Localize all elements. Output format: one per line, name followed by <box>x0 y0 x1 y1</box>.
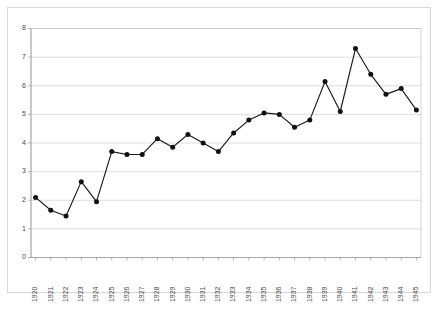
x-axis-tick-label: 1944 <box>397 286 404 302</box>
y-axis-tick-label: 3 <box>22 167 26 174</box>
x-axis-tick-label: 1945 <box>412 286 419 302</box>
data-point-marker <box>64 213 69 218</box>
data-line-group <box>36 49 417 216</box>
x-axis-tick-label: 1942 <box>367 286 374 302</box>
x-axis-tick-label: 1921 <box>47 286 54 302</box>
line-chart: 012345678 192019211922192319241925192619… <box>0 0 439 319</box>
x-axis-tick-label: 1926 <box>123 286 130 302</box>
x-axis-tick-label: 1934 <box>245 286 252 302</box>
data-point-marker <box>262 110 267 115</box>
data-point-marker <box>414 108 419 113</box>
x-axis-tick-label: 1930 <box>184 286 191 302</box>
x-axis-tick-label: 1932 <box>214 286 221 302</box>
x-axis-tick-label: 1924 <box>92 286 99 302</box>
x-axis-tick-label: 1933 <box>229 286 236 302</box>
y-axis-tick-label: 2 <box>22 196 26 203</box>
y-axis-tick-label: 0 <box>22 253 26 260</box>
data-point-marker <box>79 179 84 184</box>
data-point-marker <box>292 125 297 130</box>
y-axis-tick-label: 4 <box>22 139 26 146</box>
data-point-marker <box>246 118 251 123</box>
y-axis-tick-label: 7 <box>22 53 26 60</box>
data-markers-group <box>33 46 419 218</box>
x-axis-tick-label: 1920 <box>31 286 38 302</box>
data-point-marker <box>109 149 114 154</box>
x-axis-tick-label: 1929 <box>169 286 176 302</box>
data-point-marker <box>48 208 53 213</box>
x-axis-ticks: 1920192119221923192419251926192719281929… <box>31 258 421 303</box>
data-point-marker <box>94 199 99 204</box>
x-axis-tick-label: 1927 <box>138 286 145 302</box>
x-axis-tick-label: 1935 <box>260 286 267 302</box>
x-axis-tick-label: 1941 <box>351 286 358 302</box>
data-point-marker <box>338 109 343 114</box>
x-axis-tick-label: 1923 <box>77 286 84 302</box>
y-axis-tick-label: 5 <box>22 110 26 117</box>
data-point-marker <box>155 136 160 141</box>
y-axis-ticks: 012345678 <box>22 24 31 260</box>
data-point-marker <box>231 130 236 135</box>
data-point-marker <box>368 72 373 77</box>
x-axis-tick-label: 1939 <box>321 286 328 302</box>
data-point-marker <box>216 149 221 154</box>
data-point-marker <box>323 79 328 84</box>
x-axis-tick-label: 1922 <box>62 286 69 302</box>
x-axis-tick-label: 1928 <box>153 286 160 302</box>
x-axis-tick-label: 1925 <box>108 286 115 302</box>
data-point-marker <box>277 112 282 117</box>
data-point-marker <box>353 46 358 51</box>
y-axis-tick-label: 6 <box>22 82 26 89</box>
x-axis-tick-label: 1937 <box>290 286 297 302</box>
chart-container: 012345678 192019211922192319241925192619… <box>0 0 439 319</box>
data-point-marker <box>124 152 129 157</box>
data-point-marker <box>140 152 145 157</box>
data-point-marker <box>201 141 206 146</box>
x-axis-tick-label: 1940 <box>336 286 343 302</box>
data-point-marker <box>307 118 312 123</box>
data-point-marker <box>185 132 190 137</box>
data-point-marker <box>170 145 175 150</box>
y-axis-tick-label: 1 <box>22 225 26 232</box>
data-line <box>36 49 417 216</box>
x-axis-tick-label: 1943 <box>382 286 389 302</box>
gridlines <box>31 29 421 229</box>
y-axis-tick-label: 8 <box>22 24 26 31</box>
x-axis-tick-label: 1938 <box>306 286 313 302</box>
x-axis-tick-label: 1931 <box>199 286 206 302</box>
data-point-marker <box>383 92 388 97</box>
data-point-marker <box>399 86 404 91</box>
data-point-marker <box>33 195 38 200</box>
x-axis-tick-label: 1936 <box>275 286 282 302</box>
